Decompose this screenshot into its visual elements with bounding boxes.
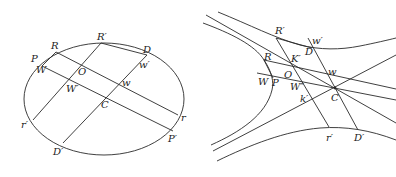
label-R: R xyxy=(263,51,272,62)
hyperbola-figure: R′ w′ D R K′ O w W P W″ C k′ r′ D′ xyxy=(203,12,396,161)
label-P-prime: P′ xyxy=(167,133,178,144)
label-r: r xyxy=(181,112,187,123)
label-W: W xyxy=(36,64,47,75)
label-C: C xyxy=(101,99,109,110)
label-w: w xyxy=(328,66,337,77)
label-R-prime: R′ xyxy=(274,25,286,36)
label-O: O xyxy=(284,69,292,80)
label-K-prime: K′ xyxy=(290,53,301,64)
label-w-prime: w′ xyxy=(312,35,324,46)
label-P: P xyxy=(271,77,279,88)
label-r-prime: r′ xyxy=(326,132,334,143)
diameter-rprime-rprime xyxy=(33,43,101,120)
label-w-prime: w′ xyxy=(139,59,151,70)
label-R-prime: R′ xyxy=(96,31,108,42)
upper-branch-curve xyxy=(218,12,396,49)
label-D-prime: D′ xyxy=(353,132,365,143)
ellipse-figure: R R′ D P W O w′ w W′ C r r′ P′ D′ xyxy=(21,31,187,157)
figure-canvas: R R′ D P W O w′ w W′ C r r′ P′ D′ xyxy=(0,0,396,177)
label-R: R xyxy=(50,40,59,51)
label-D: D xyxy=(142,44,151,55)
label-w: w xyxy=(122,77,131,88)
label-D-prime: D′ xyxy=(52,146,64,157)
label-D: D xyxy=(304,46,313,57)
label-r-prime: r′ xyxy=(21,119,29,130)
label-P: P xyxy=(30,53,38,64)
label-W-double-prime: W″ xyxy=(290,81,304,92)
label-C: C xyxy=(331,92,339,103)
centre-point-C xyxy=(334,87,337,90)
label-O: O xyxy=(78,66,86,77)
label-k-prime: k′ xyxy=(300,93,309,104)
lower-branch-curve xyxy=(217,128,396,162)
label-W: W xyxy=(258,76,269,87)
label-W-prime: W′ xyxy=(66,83,79,94)
asymptote-1 xyxy=(206,15,396,123)
